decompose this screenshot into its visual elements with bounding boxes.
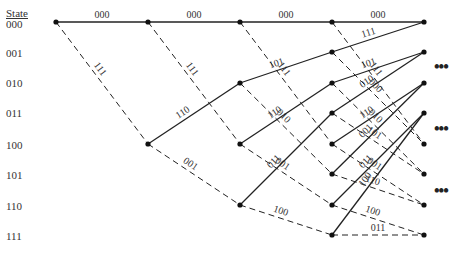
trellis-node — [329, 232, 334, 237]
branch-dashed — [240, 22, 332, 144]
trellis-node — [329, 80, 334, 85]
branch-solid — [148, 83, 240, 144]
branch-output-label: 100 — [364, 203, 382, 218]
trellis-node — [329, 141, 334, 146]
trellis-node — [145, 141, 150, 146]
branch-output-label: 111 — [360, 25, 377, 40]
trellis-node — [421, 49, 426, 54]
branch-dashed — [56, 22, 148, 144]
branch-solid — [240, 83, 332, 144]
trellis-node — [421, 110, 426, 115]
trellis-node — [329, 202, 334, 207]
trellis-node — [421, 141, 426, 146]
trellis-node — [329, 171, 334, 176]
branch-output-label: 111 — [184, 60, 201, 78]
branch-output-label: 111 — [92, 60, 109, 78]
branch-solid — [332, 22, 424, 52]
trellis-node — [237, 19, 242, 24]
trellis-node — [237, 202, 242, 207]
trellis-node — [421, 232, 426, 237]
trellis-node — [421, 80, 426, 85]
trellis-node — [53, 19, 58, 24]
branch-dashed — [148, 144, 240, 205]
trellis-node — [421, 202, 426, 207]
branch-solid — [240, 113, 332, 205]
branch-dashed — [240, 144, 332, 205]
trellis-node — [237, 141, 242, 146]
branch-output-label: 100 — [272, 203, 290, 218]
trellis-node — [329, 49, 334, 54]
branch-output-label: 110 — [173, 104, 191, 121]
trellis-diagram: State 000 001 010 011 100 101 110 111 00… — [0, 0, 466, 255]
continuation-ellipsis: ••• — [434, 58, 448, 76]
trellis-node — [329, 19, 334, 24]
continuation-ellipsis: ••• — [434, 182, 448, 200]
branch-output-label: 000 — [279, 9, 294, 20]
branch-output-label: 000 — [95, 9, 110, 20]
trellis-node — [421, 19, 426, 24]
trellis-graph: 0001110001111100010001111010101100010111… — [0, 0, 466, 255]
trellis-node — [421, 171, 426, 176]
branch-dashed — [148, 22, 240, 144]
branch-output-label: 011 — [371, 222, 386, 233]
branch-solid — [240, 52, 332, 83]
branch-output-label: 001 — [181, 155, 200, 172]
branch-output-label: 000 — [187, 9, 202, 20]
trellis-node — [329, 110, 334, 115]
continuation-ellipsis: ••• — [434, 120, 448, 138]
trellis-node — [145, 19, 150, 24]
branch-output-label: 000 — [371, 9, 386, 20]
trellis-node — [237, 80, 242, 85]
